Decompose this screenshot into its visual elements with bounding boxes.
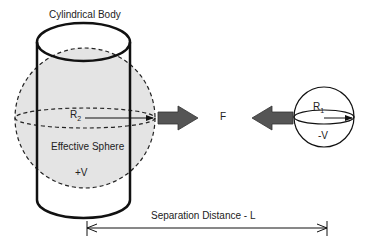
effective-sphere-label: Effective Sphere [51, 142, 124, 152]
cylinder-label: Cylindrical Body [49, 10, 121, 20]
plus-v-label: +V [75, 168, 88, 178]
separation-label: Separation Distance - L [151, 211, 256, 221]
minus-v-label: -V [318, 131, 328, 141]
r1-label: R1 [313, 102, 324, 112]
force-label: F [220, 112, 226, 122]
r2-sub: 2 [77, 115, 81, 122]
r1-sub: 1 [320, 107, 324, 114]
r2-label: R2 [70, 110, 81, 120]
force-arrow-right [158, 106, 198, 130]
force-arrow-left [252, 106, 293, 130]
separation-dimension [87, 221, 327, 236]
